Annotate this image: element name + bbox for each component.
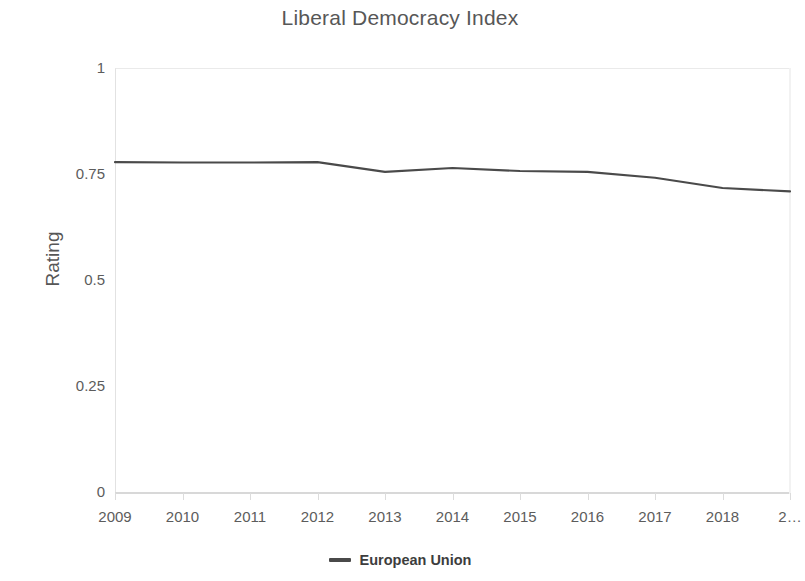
x-axis-tick xyxy=(520,493,521,500)
plot-area xyxy=(115,68,790,493)
legend-item-label: European Union xyxy=(360,552,472,568)
x-axis-tick-label: 2… xyxy=(760,508,805,525)
x-axis-tick-label: 2010 xyxy=(153,508,213,525)
chart-legend: European Union xyxy=(0,552,800,568)
x-axis-tick xyxy=(385,493,386,500)
x-axis-tick-label: 2013 xyxy=(355,508,415,525)
x-axis-tick-label: 2009 xyxy=(85,508,145,525)
x-axis-tick-label: 2018 xyxy=(693,508,753,525)
y-axis-tick-label: 1 xyxy=(43,59,105,76)
plot-right-edge xyxy=(789,68,791,494)
y-axis-title: Rating xyxy=(42,199,64,319)
y-axis-tick-label: 0 xyxy=(43,483,105,500)
x-axis-tick xyxy=(453,493,454,500)
x-axis-tick xyxy=(115,493,116,500)
x-axis-tick xyxy=(250,493,251,500)
x-axis-tick xyxy=(318,493,319,500)
x-axis-tick-label: 2014 xyxy=(423,508,483,525)
legend-item-european-union[interactable]: European Union xyxy=(329,552,472,568)
y-axis-tick-label: 0.75 xyxy=(43,165,105,182)
x-axis-tick-label: 2016 xyxy=(558,508,618,525)
x-axis-tick xyxy=(588,493,589,500)
y-axis-tick-label: 0.5 xyxy=(43,271,105,288)
x-axis-tick xyxy=(183,493,184,500)
x-axis-tick-label: 2012 xyxy=(288,508,348,525)
y-axis-tick-label: 0.25 xyxy=(43,377,105,394)
x-axis-tick-label: 2017 xyxy=(625,508,685,525)
x-axis-tick-label: 2011 xyxy=(220,508,280,525)
legend-line-marker-icon xyxy=(329,558,351,562)
x-axis-tick xyxy=(790,493,791,500)
chart-title: Liberal Democracy Index xyxy=(0,6,800,30)
x-axis-tick xyxy=(655,493,656,500)
x-axis-tick xyxy=(723,493,724,500)
x-axis-tick-label: 2015 xyxy=(490,508,550,525)
